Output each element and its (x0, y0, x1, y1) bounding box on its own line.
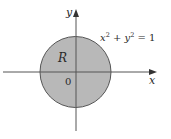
region-label: R (57, 51, 67, 65)
x-axis-label: x (149, 74, 156, 87)
y-axis-label: y (65, 6, 73, 19)
circle-equation: x2 + y2 = 1 (100, 31, 155, 43)
origin-label: 0 (65, 76, 71, 87)
region-diagram: y x R 0 x2 + y2 = 1 (0, 0, 171, 139)
y-axis-arrow-icon (73, 9, 79, 17)
